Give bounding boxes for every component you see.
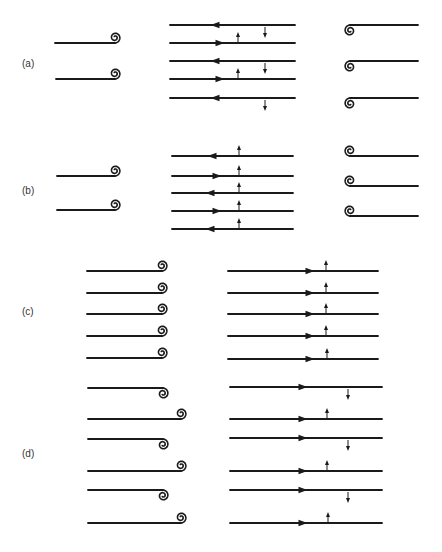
arrow-right-icon	[299, 416, 308, 422]
arrow-up-icon	[324, 303, 328, 308]
arrow-right-icon	[306, 268, 315, 274]
arrow-right-icon	[299, 468, 308, 474]
arrow-down-icon	[346, 446, 350, 451]
panel-label-b: (b)	[22, 185, 34, 196]
arrow-right-icon	[299, 435, 308, 441]
spiral-icon	[345, 98, 353, 108]
panel-label-c: (c)	[22, 306, 34, 317]
arrow-left-icon	[206, 190, 215, 196]
arrow-right-icon	[306, 356, 315, 362]
spiral-icon	[111, 69, 119, 79]
spiral-icon	[177, 409, 185, 419]
arrow-up-icon	[324, 325, 328, 330]
spiral-icon	[159, 388, 167, 398]
arrow-down-icon	[263, 69, 267, 74]
arrow-right-icon	[213, 173, 222, 179]
spiral-icon	[111, 33, 119, 43]
arrow-up-icon	[324, 282, 328, 287]
spiral-icon	[158, 326, 166, 336]
spiral-icon	[177, 461, 185, 471]
arrow-up-icon	[237, 200, 241, 205]
arrow-right-icon	[306, 311, 315, 317]
arrow-up-icon	[325, 408, 329, 413]
arrow-up-icon	[237, 218, 241, 223]
arrow-up-icon	[236, 32, 240, 37]
panel-label-a: (a)	[22, 58, 34, 69]
arrow-down-icon	[346, 498, 350, 503]
spiral-icon	[111, 166, 119, 176]
spiral-icon	[345, 206, 353, 216]
arrow-up-icon	[324, 260, 328, 265]
spiral-icon	[177, 513, 185, 523]
arrow-right-icon	[299, 384, 308, 390]
spiral-icon	[158, 304, 166, 314]
arrow-down-icon	[346, 395, 350, 400]
arrow-up-icon	[237, 182, 241, 187]
arrow-up-icon	[237, 165, 241, 170]
spiral-icon	[345, 61, 353, 71]
arrow-left-icon	[211, 22, 220, 28]
arrow-right-icon	[299, 487, 308, 493]
spiral-icon	[158, 261, 166, 271]
vortex-sheet-diagram	[0, 0, 442, 552]
spiral-icon	[345, 176, 353, 186]
spiral-icon	[111, 200, 119, 210]
arrow-left-icon	[211, 95, 220, 101]
spiral-icon	[345, 25, 353, 35]
spiral-icon	[159, 439, 167, 449]
arrow-right-icon	[299, 520, 308, 526]
arrow-left-icon	[208, 153, 217, 159]
arrow-down-icon	[263, 33, 267, 38]
arrow-right-icon	[213, 208, 222, 214]
arrow-up-icon	[237, 145, 241, 150]
arrow-right-icon	[306, 333, 315, 339]
arrow-left-icon	[211, 58, 220, 64]
arrow-up-icon	[236, 68, 240, 73]
panel-label-d: (d)	[22, 448, 34, 459]
spiral-icon	[345, 146, 353, 156]
arrow-right-icon	[306, 290, 315, 296]
arrow-up-icon	[326, 512, 330, 517]
spiral-icon	[159, 490, 167, 500]
arrow-up-icon	[325, 460, 329, 465]
arrow-up-icon	[325, 348, 329, 353]
arrow-right-icon	[216, 40, 225, 46]
arrow-right-icon	[216, 76, 225, 82]
arrow-down-icon	[263, 106, 267, 111]
spiral-icon	[158, 348, 166, 358]
spiral-icon	[158, 283, 166, 293]
arrow-left-icon	[206, 226, 215, 232]
